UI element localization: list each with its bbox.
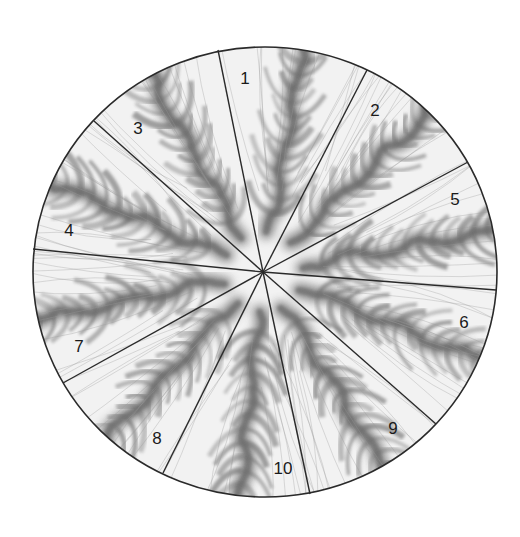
sector-label-1: 1 (240, 69, 249, 88)
sector-label-7: 7 (74, 337, 83, 356)
sector-label-8: 8 (152, 429, 161, 448)
band-frond (303, 26, 337, 48)
band-frond (384, 462, 420, 471)
band-frond (149, 34, 163, 74)
sector-label-4: 4 (64, 221, 73, 240)
band-frond (206, 499, 239, 523)
band-frond (239, 499, 266, 529)
segmented-disc-figure: 31256910874 (0, 0, 520, 537)
band-frond (81, 435, 108, 439)
band-frond (114, 67, 149, 77)
band-frond (117, 405, 136, 408)
sector-label-9: 9 (388, 419, 397, 438)
sector-label-3: 3 (133, 119, 142, 138)
sector-label-10: 10 (274, 459, 293, 478)
band-frond (41, 147, 55, 183)
sector-label-6: 6 (459, 313, 468, 332)
sector-label-2: 2 (370, 101, 379, 120)
band-frond (289, 31, 302, 48)
band-frond (108, 439, 114, 469)
sector-label-5: 5 (450, 190, 459, 209)
